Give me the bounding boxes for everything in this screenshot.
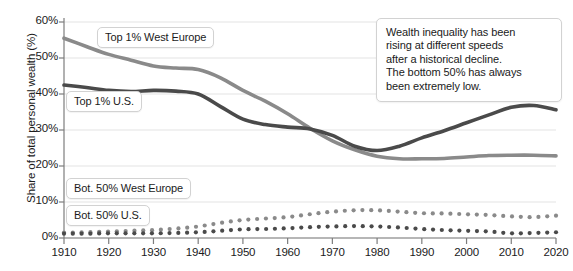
series-dot bbox=[326, 225, 330, 229]
series-dot bbox=[255, 217, 259, 221]
y-tick-label: 0% bbox=[24, 230, 58, 242]
series-dot bbox=[264, 227, 268, 231]
y-tick-label: 10% bbox=[24, 194, 58, 206]
series-dot bbox=[519, 215, 523, 219]
x-tick-label: 1940 bbox=[173, 246, 223, 258]
y-tick-label: 50% bbox=[24, 50, 58, 62]
series-dot bbox=[115, 231, 119, 235]
x-tick-label: 2010 bbox=[486, 246, 536, 258]
series-dot bbox=[325, 210, 329, 214]
x-tick-label: 1920 bbox=[84, 246, 134, 258]
x-tick-label: 1980 bbox=[352, 246, 402, 258]
series-dot bbox=[273, 227, 277, 231]
series-dot bbox=[396, 225, 400, 229]
series-dot bbox=[281, 215, 285, 219]
x-tick-label: 1960 bbox=[263, 246, 313, 258]
series-dot bbox=[290, 226, 294, 230]
series-dot bbox=[536, 231, 540, 235]
series-dot bbox=[440, 211, 444, 215]
series-dot bbox=[229, 228, 233, 232]
series-dot bbox=[159, 231, 163, 235]
annotation-line: been extremely low. bbox=[386, 80, 552, 93]
series-dot bbox=[396, 210, 400, 214]
series-dot bbox=[62, 232, 66, 236]
series-dot bbox=[167, 231, 171, 235]
series-dot bbox=[352, 224, 356, 228]
series-dot bbox=[378, 225, 382, 229]
series-dot bbox=[422, 211, 426, 215]
y-tick-label: 30% bbox=[24, 122, 58, 134]
series-dot bbox=[492, 230, 496, 234]
series-dot bbox=[282, 226, 286, 230]
series-dot bbox=[238, 227, 242, 231]
series-dot bbox=[334, 224, 338, 228]
series-dot bbox=[448, 212, 452, 216]
series-dot bbox=[554, 230, 558, 234]
series-dot bbox=[211, 222, 215, 226]
series-dot bbox=[185, 231, 189, 235]
series-dot bbox=[246, 227, 250, 231]
series-dot bbox=[255, 227, 259, 231]
series-dot bbox=[343, 224, 347, 228]
series-dot bbox=[264, 216, 268, 220]
series-dot bbox=[554, 214, 558, 218]
series-dot bbox=[237, 218, 241, 222]
series-dot bbox=[79, 232, 83, 236]
series-dot bbox=[431, 211, 435, 215]
series-dot bbox=[168, 227, 172, 231]
series-dot bbox=[360, 208, 364, 212]
series-dot bbox=[194, 225, 198, 229]
x-tick-label: 2000 bbox=[442, 246, 492, 258]
series-dot bbox=[545, 214, 549, 218]
series-dot bbox=[308, 225, 312, 229]
series-dot bbox=[457, 228, 461, 232]
series-dot bbox=[317, 225, 321, 229]
x-tick-label: 1930 bbox=[128, 246, 178, 258]
series-dot bbox=[123, 231, 127, 235]
series-dot bbox=[141, 231, 145, 235]
series-dot bbox=[203, 230, 207, 234]
series-dot bbox=[211, 229, 215, 233]
x-tick-label: 1970 bbox=[307, 246, 357, 258]
series-dot bbox=[466, 212, 470, 216]
series-dot bbox=[246, 217, 250, 221]
series-dot bbox=[404, 210, 408, 214]
series-dot bbox=[176, 226, 180, 230]
x-tick-label: 2020 bbox=[531, 246, 573, 258]
series-dot bbox=[176, 231, 180, 235]
annotation-line: after a historical decline. bbox=[386, 53, 552, 66]
series-dot bbox=[352, 208, 356, 212]
annotation-line: Wealth inequality has been bbox=[386, 26, 552, 39]
series-dot bbox=[501, 214, 505, 218]
series-dot bbox=[203, 223, 207, 227]
x-tick-label: 1950 bbox=[218, 246, 268, 258]
series-dot bbox=[132, 231, 136, 235]
annotation-callout: Wealth inequality has beenrising at diff… bbox=[376, 18, 562, 102]
series-label: Bot. 50% West Europe bbox=[66, 178, 191, 199]
annotation-line: rising at different speeds bbox=[386, 39, 552, 52]
series-dot bbox=[519, 231, 523, 235]
series-dot bbox=[316, 211, 320, 215]
series-dot bbox=[528, 231, 532, 235]
annotation-line: The bottom 50% has always bbox=[386, 66, 552, 79]
series-dot bbox=[220, 221, 224, 225]
series-dot bbox=[273, 216, 277, 220]
y-tick-label: 60% bbox=[24, 14, 58, 26]
series-dot bbox=[413, 211, 417, 215]
series-dot bbox=[431, 227, 435, 231]
series-dot bbox=[440, 228, 444, 232]
x-tick-label: 1990 bbox=[397, 246, 447, 258]
series-dot bbox=[510, 214, 514, 218]
series-dot bbox=[299, 226, 303, 230]
series-dot bbox=[361, 224, 365, 228]
series-dot bbox=[220, 229, 224, 233]
series-dot bbox=[475, 229, 479, 233]
y-tick-label: 20% bbox=[24, 158, 58, 170]
series-dot bbox=[501, 231, 505, 235]
y-tick-label: 40% bbox=[24, 86, 58, 98]
series-dot bbox=[71, 232, 75, 236]
series-dot bbox=[229, 219, 233, 223]
series-dot bbox=[405, 226, 409, 230]
series-dot bbox=[492, 213, 496, 217]
